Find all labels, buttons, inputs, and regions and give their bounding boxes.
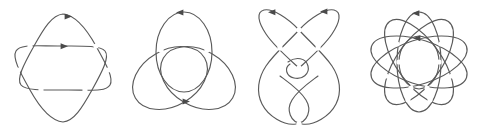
- direction-arrow-1: [65, 14, 72, 20]
- strand-group-b: [15, 46, 107, 122]
- knot-diagram-five-petal-star-knot: [356, 0, 482, 136]
- strand-petal-4: [372, 9, 466, 116]
- direction-arrow-2: [320, 8, 327, 14]
- crossing-breaks: [277, 27, 320, 126]
- direction-arrow-2: [61, 43, 68, 49]
- strand-petal-top: [156, 12, 212, 92]
- strand-triangle-a: [19, 14, 111, 90]
- knot-figure-sheet: [0, 0, 482, 136]
- strand-triangle-b: [15, 46, 107, 122]
- strand-group-outer-petals: [365, 9, 474, 116]
- strand-group-a: [19, 14, 111, 90]
- crossing-breaks: [15, 43, 110, 92]
- knot-diagram-three-petal-trefoil-knot: [128, 0, 240, 136]
- knot-diagram-vertical-twisted-link: [244, 0, 354, 136]
- direction-arrow-1: [412, 10, 419, 16]
- strand-group-petals: [128, 12, 240, 122]
- strand-petal-3: [372, 9, 466, 116]
- direction-arrow-1: [176, 10, 183, 16]
- strand-inner-loop: [399, 36, 439, 89]
- strand-group-inner-loop: [399, 36, 439, 89]
- knot-diagram-six-pointed-star-link: [0, 0, 126, 136]
- strand-petal-1: [397, 12, 441, 112]
